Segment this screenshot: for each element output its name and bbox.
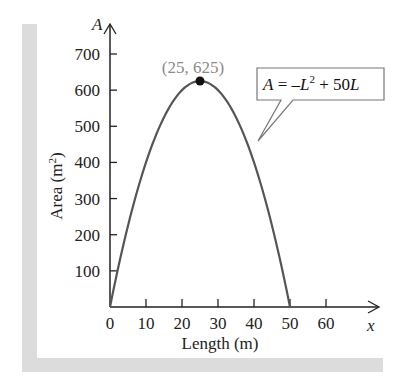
x-axis [110,301,379,313]
vertex-label: (25, 625) [162,58,224,77]
x-tick-label: 20 [174,314,191,333]
y-axis [104,24,116,307]
x-tick-label: 30 [210,314,227,333]
x-axis-variable: x [366,316,375,335]
y-tick-label: 400 [75,153,101,172]
y-tick-label: 100 [75,262,101,281]
y-tick-label: 500 [75,117,101,136]
y-axis-title: Area (m2) [46,152,66,219]
x-axis-title: Length (m) [182,334,259,353]
x-ticks: 0102030405060 [106,299,335,333]
y-tick-label: 200 [75,226,101,245]
y-axis-variable: A [91,15,103,34]
x-tick-label: 0 [106,314,115,333]
y-tick-label: 700 [75,45,101,64]
x-tick-label: 60 [318,314,335,333]
x-tick-label: 50 [282,314,299,333]
vertex-point [196,77,205,86]
y-tick-label: 600 [75,81,101,100]
parabola-curve [110,81,290,307]
x-tick-label: 40 [246,314,263,333]
equation-callout: A = –L2 + 50L [257,68,384,141]
x-tick-label: 10 [138,314,155,333]
y-tick-label: 300 [75,190,101,209]
chart: 100200300400500600700 0102030405060 A x … [0,0,413,384]
